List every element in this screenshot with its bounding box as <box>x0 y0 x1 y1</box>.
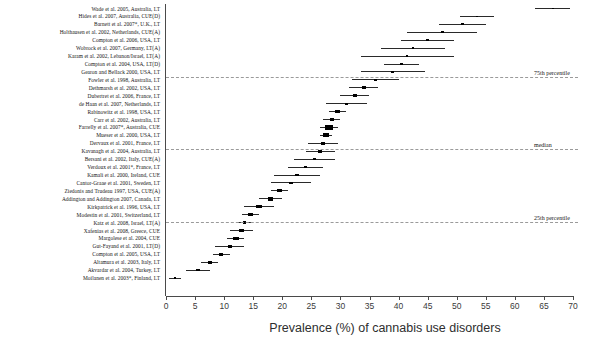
forest-row <box>166 84 573 91</box>
x-axis-tick-label: 10 <box>219 301 228 311</box>
reference-line <box>166 149 578 150</box>
study-label: Fowler et al. 1998, Australia, LT <box>2 77 160 83</box>
forest-row <box>166 203 573 210</box>
forest-row <box>166 187 573 194</box>
forest-row <box>166 61 573 68</box>
reference-line <box>166 77 578 78</box>
study-label: Ziedonis and Trudeau 1997, USA, CUE(A) <box>2 188 160 194</box>
x-axis-tick-label: 30 <box>336 301 345 311</box>
point-estimate-marker <box>239 229 244 232</box>
reference-line-label: 25th percentile <box>534 215 570 221</box>
forest-row <box>166 227 573 234</box>
forest-row <box>166 37 573 44</box>
point-estimate-marker <box>330 118 334 121</box>
x-axis-tick-label: 60 <box>510 301 519 311</box>
forest-row <box>166 179 573 186</box>
x-axis-tick <box>282 296 283 300</box>
x-axis-tick-label: 0 <box>164 301 169 311</box>
forest-row <box>166 21 573 28</box>
study-label: Altamura et al. 2003, Italy, LT <box>2 259 160 265</box>
x-axis-tick-label: 65 <box>539 301 548 311</box>
x-axis-tick-label: 20 <box>278 301 287 311</box>
forest-row <box>166 235 573 242</box>
forest-row <box>166 219 573 226</box>
point-estimate-marker <box>476 16 479 18</box>
point-estimate-marker <box>461 23 464 25</box>
x-axis-label-wrap: Prevalence (%) of cannabis use disorders <box>205 318 565 336</box>
forest-row <box>166 100 573 107</box>
x-axis-tick-label: 25 <box>307 301 316 311</box>
point-estimate-marker <box>323 133 329 137</box>
point-estimate-marker <box>335 110 339 113</box>
point-estimate-marker <box>391 71 394 73</box>
point-estimate-marker <box>196 269 200 271</box>
forest-row <box>166 132 573 139</box>
point-estimate-marker <box>552 8 554 10</box>
point-estimate-marker <box>353 94 357 96</box>
forest-row <box>166 68 573 75</box>
forest-row <box>166 92 573 99</box>
x-axis-tick-label: 5 <box>193 301 198 311</box>
point-estimate-marker <box>277 189 282 192</box>
forest-row <box>166 275 573 282</box>
study-label: Mueser et al. 2000, USA, LT <box>2 132 160 138</box>
point-estimate-marker <box>325 125 333 130</box>
point-estimate-marker <box>304 166 308 168</box>
point-estimate-marker <box>174 277 176 279</box>
forest-plot-figure: Wade et al. 2005, Australia, LTHides et … <box>0 0 599 349</box>
x-axis-tick-label: 45 <box>423 301 432 311</box>
point-estimate-marker <box>441 31 444 33</box>
study-label: Farrelly et al. 2007*, Australia, CUE <box>2 124 160 130</box>
forest-row <box>166 140 573 147</box>
point-estimate-marker <box>219 253 224 256</box>
point-estimate-marker <box>412 47 415 49</box>
point-estimate-marker <box>289 182 293 185</box>
study-label: Compton et al. 2004, USA, LT(D) <box>2 61 160 67</box>
x-axis-tick <box>253 296 254 300</box>
reference-line <box>166 222 578 223</box>
x-axis-tick <box>573 296 574 300</box>
x-axis-tick-label: 15 <box>248 301 257 311</box>
x-axis-tick <box>399 296 400 300</box>
study-label: Dubertret et al. 2006, France, LT <box>2 93 160 99</box>
study-label: Rabinowitz et al. 1998, USA, LT <box>2 109 160 115</box>
point-estimate-marker <box>256 205 261 208</box>
point-estimate-marker <box>295 174 299 176</box>
x-axis-tick <box>515 296 516 300</box>
forest-row <box>166 108 573 115</box>
forest-row <box>166 29 573 36</box>
point-estimate-marker <box>345 103 348 105</box>
study-label: Addington and Addington 2007, Canada, LT <box>2 196 160 202</box>
study-label: Verdoux et al. 2001*, France, LT <box>2 164 160 170</box>
forest-row <box>166 116 573 123</box>
x-axis-tick-label: 40 <box>394 301 403 311</box>
forest-row <box>166 53 573 60</box>
forest-row <box>166 156 573 163</box>
reference-line-label: median <box>534 142 552 148</box>
x-axis-tick-label: 50 <box>452 301 461 311</box>
study-label: Wade et al. 2005, Australia, LT <box>2 6 160 12</box>
study-label: Katz et al. 2008, Israel, LT(A) <box>2 220 160 226</box>
forest-row <box>166 5 573 12</box>
x-axis-tick <box>195 296 196 300</box>
x-axis-tick <box>544 296 545 300</box>
study-label: de Haan et al. 2007, Netherlands, LT <box>2 101 160 107</box>
x-axis-tick <box>486 296 487 300</box>
study-label: Gearon and Bellack 2000, USA, LT <box>2 69 160 75</box>
forest-row <box>166 13 573 20</box>
forest-row <box>166 164 573 171</box>
forest-row <box>166 211 573 218</box>
study-label: Xafenias et al. 2008, Greece, CUE <box>2 228 160 234</box>
point-estimate-marker <box>248 213 253 216</box>
point-estimate-marker <box>374 79 377 81</box>
study-label: Holthausen et al. 2002, Netherlands, CUE… <box>2 29 160 35</box>
x-axis-label: Prevalence (%) of cannabis use disorders <box>269 321 500 335</box>
study-label: Gut-Fayand et al. 2001, LT(D) <box>2 243 160 249</box>
forest-row <box>166 243 573 250</box>
point-estimate-marker <box>228 245 233 248</box>
point-estimate-marker <box>268 197 273 200</box>
study-label: Compton et al. 2005, USA, LT <box>2 251 160 257</box>
reference-line-label: 75th percentile <box>534 70 570 76</box>
study-label-column: Wade et al. 2005, Australia, LTHides et … <box>0 0 160 292</box>
forest-row <box>166 267 573 274</box>
